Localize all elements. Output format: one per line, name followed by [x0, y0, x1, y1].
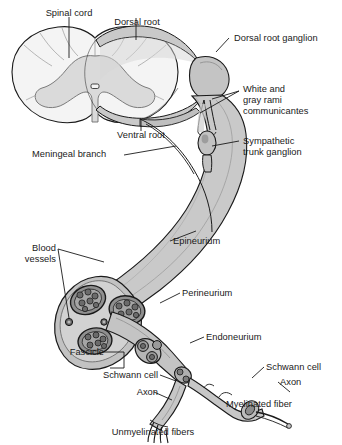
label-schwann-cell-right: Schwann cell	[266, 362, 321, 373]
leader-endoneurium	[190, 337, 204, 343]
spinal-nerve-figure: Spinal cord Dorsal root Dorsal root gang…	[0, 0, 342, 445]
label-rami-line2: gray rami	[243, 95, 282, 106]
central-canal	[91, 84, 99, 89]
label-ventral-root: Ventral root	[104, 130, 178, 141]
leader-meningeal	[124, 146, 176, 155]
label-perineurium: Perineurium	[182, 288, 232, 299]
label-blood-vessels-line2: vessels	[0, 254, 56, 265]
blood-vessel	[65, 318, 72, 325]
label-axon-left: Axon	[90, 387, 158, 398]
label-myelinated-fiber: Myelinated fiber	[226, 399, 292, 410]
label-sympathetic-line1: Sympathetic	[243, 136, 294, 147]
leader-perineurium	[160, 293, 180, 303]
label-rami-line1: White and	[243, 84, 285, 95]
label-unmyelinated-fibers: Unmyelinated fibers	[88, 427, 218, 438]
label-epineurium: Epineurium	[173, 236, 220, 247]
label-sympathetic-line2: trunk ganglion	[243, 147, 302, 158]
label-endoneurium: Endoneurium	[206, 332, 262, 343]
leader-schwann-right	[252, 367, 264, 378]
label-axon-right: Axon	[280, 377, 301, 388]
spinal-nerve-trunk	[108, 95, 247, 306]
label-schwann-cell-left: Schwann cell	[58, 370, 158, 381]
label-dorsal-root: Dorsal root	[98, 17, 176, 28]
label-blood-vessels-line1: Blood	[0, 243, 56, 254]
dorsal-root-ganglion	[190, 56, 230, 99]
leader-blood-1	[58, 249, 104, 262]
label-meningeal-branch: Meningeal branch	[32, 149, 106, 160]
blood-vessel	[101, 319, 107, 325]
label-fascicle: Fascicle	[44, 347, 104, 358]
label-dorsal-root-ganglion: Dorsal root ganglion	[234, 33, 318, 44]
leader-dorsal-root-ganglion	[216, 38, 229, 52]
label-rami-line3: communicantes	[243, 106, 308, 117]
